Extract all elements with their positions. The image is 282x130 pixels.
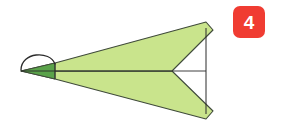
step-number-label: 4 [244,13,255,32]
paper-airplane-diagram: 4 [0,0,282,130]
step-number-badge: 4 [233,6,265,38]
upper-wing [21,22,213,71]
